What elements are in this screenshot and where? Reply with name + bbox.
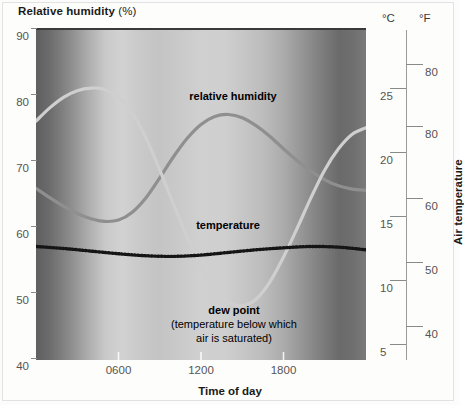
temperature-annotation: temperature — [196, 218, 260, 232]
right-axis-title: Air temperature — [452, 159, 464, 245]
series-dew-point-curve — [36, 246, 366, 256]
fahrenheit-tick-label-3: 50 — [425, 264, 438, 276]
celsius-tick-label-15: 15 — [380, 218, 393, 230]
fahrenheit-tick-label-4: 40 — [425, 328, 438, 340]
celsius-tick-mark — [390, 280, 406, 281]
fahrenheit-tick-label-2: 60 — [425, 200, 438, 212]
y-tick-mark — [31, 358, 37, 359]
series-relative-humidity-curve — [36, 114, 366, 221]
y-tick-mark — [31, 226, 37, 227]
temperature-annotation-label: temperature — [196, 219, 260, 231]
y-tick-label-80: 80 — [16, 96, 29, 108]
celsius-tick-label-20: 20 — [380, 154, 393, 166]
fahrenheit-tick-mark — [406, 262, 423, 263]
y-tick-label-40: 40 — [16, 360, 29, 372]
y-tick-mark — [31, 94, 37, 95]
humidity-annotation-label: relative humidity — [189, 90, 276, 102]
fahrenheit-tick-mark — [406, 198, 423, 199]
celsius-tick-mark — [390, 216, 406, 217]
celsius-tick-label-10: 10 — [380, 282, 393, 294]
fahrenheit-tick-mark — [406, 326, 423, 327]
celsius-tick-mark — [390, 152, 406, 153]
y-tick-mark — [31, 160, 37, 161]
x-tick-label-1200: 1200 — [188, 364, 214, 376]
dewpoint-annotation-sub1: (temperature below which — [171, 318, 297, 330]
fahrenheit-tick-mark — [406, 64, 423, 65]
dewpoint-annotation-label: dew point — [208, 304, 259, 316]
y-axis-title-main: Relative humidity — [18, 5, 115, 17]
y-tick-label-50: 50 — [16, 294, 29, 306]
y-axis-title-unit: (%) — [118, 5, 136, 17]
celsius-tick-label-25: 25 — [380, 90, 393, 102]
x-tick-label-0600: 0600 — [106, 364, 132, 376]
y-axis-title: Relative humidity (%) — [18, 5, 136, 17]
x-axis-title: Time of day — [0, 385, 460, 397]
x-tick-label-1800: 1800 — [271, 364, 297, 376]
dewpoint-annotation: dew point (temperature below which air i… — [171, 303, 297, 345]
fahrenheit-tick-label-1: 80 — [425, 128, 438, 140]
fahrenheit-tick-mark — [406, 126, 423, 127]
celsius-unit-label: °C — [382, 12, 395, 24]
celsius-tick-mark — [390, 88, 406, 89]
right-axis-spine — [406, 30, 407, 360]
series-temperature-curve — [36, 88, 366, 306]
fahrenheit-tick-label-0: 80 — [425, 66, 438, 78]
humidity-annotation: relative humidity — [189, 89, 276, 103]
celsius-tick-mark — [390, 344, 406, 345]
y-tick-mark — [31, 292, 37, 293]
y-tick-label-60: 60 — [16, 228, 29, 240]
fahrenheit-unit-label: °F — [419, 12, 431, 24]
y-tick-label-90: 90 — [16, 30, 29, 42]
celsius-tick-label-5: 5 — [380, 346, 386, 358]
y-tick-mark — [31, 28, 37, 29]
dewpoint-annotation-sub2: air is saturated) — [196, 332, 272, 344]
y-tick-label-70: 70 — [16, 162, 29, 174]
y-axis: 908070605040 — [31, 26, 37, 360]
